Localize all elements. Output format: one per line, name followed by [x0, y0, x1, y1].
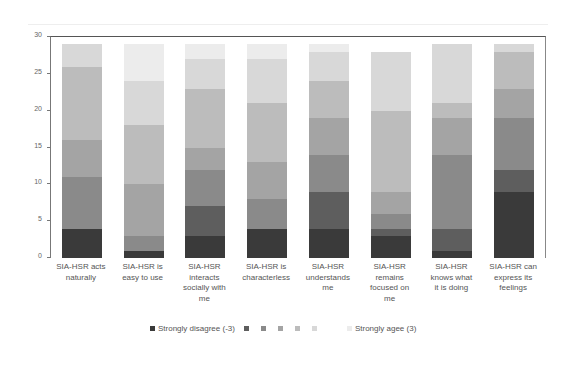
y-tick-label: 0 — [22, 252, 42, 259]
stacked-bar — [371, 52, 411, 258]
bar-segment — [185, 236, 225, 258]
bar-segment — [124, 81, 164, 125]
bar-segment — [62, 44, 102, 66]
bar-segment — [494, 170, 534, 192]
stacked-bar — [247, 44, 287, 258]
y-tick-label: 30 — [22, 31, 42, 38]
bar-segment — [62, 67, 102, 141]
bar-segment — [185, 44, 225, 59]
bar-segment — [432, 44, 472, 103]
bar-segment — [371, 236, 411, 258]
legend-swatch-icon — [150, 326, 155, 331]
y-tick-label: 15 — [22, 142, 42, 149]
bar-segment — [185, 148, 225, 170]
bar-segment — [432, 229, 472, 251]
bar-segment — [247, 44, 287, 59]
x-tick-label: SIA-HSR ischaracterless — [234, 262, 298, 283]
x-tick-label: SIA-HSRknows whatit is doing — [419, 262, 483, 294]
bar-segment — [371, 192, 411, 214]
legend-item-strongly-agree: Strongly agee (3) — [347, 324, 416, 333]
bar-segment — [247, 59, 287, 103]
bar-segment — [494, 192, 534, 258]
legend-swatch-icon — [295, 326, 300, 331]
stacked-bar — [62, 44, 102, 258]
bar-segment — [432, 251, 472, 258]
bar-segment — [371, 229, 411, 236]
legend-label: Strongly disagree (-3) — [158, 324, 235, 333]
x-tick-label: SIA-HSR canexpress itsfeelings — [481, 262, 545, 294]
stacked-bar — [185, 44, 225, 258]
bar-segment — [494, 44, 534, 51]
bar-segment — [432, 118, 472, 155]
bar-segment — [432, 103, 472, 118]
bar-segment — [309, 52, 349, 81]
bar-segment — [494, 52, 534, 89]
x-tick-label: SIA-HSRunderstandsme — [296, 262, 360, 294]
bar-segment — [247, 103, 287, 162]
bar-segment — [494, 118, 534, 170]
bar-segment — [124, 125, 164, 184]
x-tick-label: SIA-HSRremainsfocused onme — [358, 262, 422, 304]
bar-segment — [62, 229, 102, 258]
stacked-bar-chart: 051015202530 SIA-HSR actsnaturallySIA-HS… — [0, 0, 580, 365]
bar-segment — [309, 81, 349, 118]
y-tick-label: 5 — [22, 215, 42, 222]
bar-segment — [247, 162, 287, 199]
legend-middle-swatches — [244, 326, 329, 331]
bar-segment — [62, 177, 102, 229]
legend-swatch-icon — [347, 326, 352, 331]
bar-segment — [124, 44, 164, 81]
bar-segment — [494, 89, 534, 118]
bar-segment — [247, 199, 287, 228]
stacked-bar — [124, 44, 164, 258]
bar-segment — [124, 236, 164, 251]
x-tick-label: SIA-HSR actsnaturally — [49, 262, 113, 283]
bar-segment — [309, 192, 349, 229]
legend-swatch-icon — [261, 326, 266, 331]
bar-segment — [62, 140, 102, 177]
bar-segment — [309, 118, 349, 155]
legend-swatch-icon — [312, 326, 317, 331]
bar-segment — [371, 214, 411, 229]
y-tick-label: 20 — [22, 105, 42, 112]
legend-item-strongly-disagree: Strongly disagree (-3) — [150, 324, 235, 333]
bar-segment — [247, 229, 287, 258]
bar-segment — [185, 59, 225, 88]
bar-segment — [185, 170, 225, 207]
y-tick-label: 10 — [22, 178, 42, 185]
bar-segment — [124, 251, 164, 258]
y-tick-label: 25 — [22, 68, 42, 75]
stacked-bar — [432, 44, 472, 258]
bar-segment — [309, 155, 349, 192]
legend-swatch-icon — [244, 326, 249, 331]
bar-segment — [309, 229, 349, 258]
stacked-bar — [309, 44, 349, 258]
legend: Strongly disagree (-3) Strongly agee (3) — [150, 322, 450, 334]
x-tick-label: SIA-HSR iseasy to use — [111, 262, 175, 283]
stacked-bar — [494, 44, 534, 258]
x-tick-label: SIA-HSRinteractssocially withme — [172, 262, 236, 304]
bar-segment — [371, 111, 411, 192]
bar-segment — [124, 184, 164, 236]
bar-segment — [185, 206, 225, 235]
bar-segment — [432, 155, 472, 229]
legend-swatch-icon — [278, 326, 283, 331]
bar-segment — [185, 89, 225, 148]
bar-segment — [309, 44, 349, 51]
bar-segment — [371, 52, 411, 111]
plot-area — [50, 36, 546, 258]
legend-label: Strongly agee (3) — [355, 324, 416, 333]
chart-top-divider — [28, 24, 548, 25]
